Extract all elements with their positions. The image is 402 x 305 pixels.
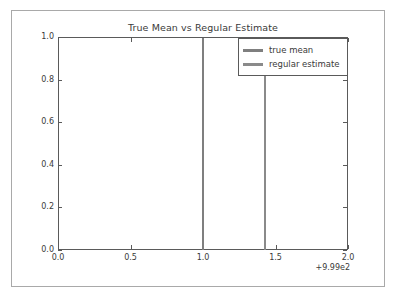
legend-label-regular-estimate: regular estimate	[269, 59, 340, 69]
y-tick-mark-right	[343, 250, 347, 251]
y-tick-label: 0.6	[10, 117, 54, 126]
x-tick-mark-top	[131, 38, 132, 42]
x-axis-offset-label: +9.99e2	[300, 263, 350, 272]
y-tick-mark	[58, 250, 62, 251]
x-tick-label: 1.5	[256, 253, 296, 262]
y-tick-mark	[58, 122, 62, 123]
y-tick-mark-right	[343, 207, 347, 208]
matplotlib-figure: True Mean vs Regular Estimate 0.00.20.40…	[0, 0, 402, 305]
chart-legend: true mean regular estimate	[238, 38, 348, 76]
legend-label-true-mean: true mean	[269, 45, 313, 55]
legend-swatch-regular-estimate	[243, 63, 263, 66]
y-tick-mark	[58, 165, 62, 166]
x-tick-mark	[131, 245, 132, 249]
x-tick-label: 0.5	[111, 253, 151, 262]
y-tick-mark-right	[343, 80, 347, 81]
y-tick-mark	[58, 207, 62, 208]
x-tick-label: 0.0	[38, 253, 78, 262]
y-tick-label: 0.2	[10, 202, 54, 211]
x-tick-label: 2.0	[328, 253, 368, 262]
x-tick-mark-top	[348, 38, 349, 42]
y-tick-mark-right	[343, 122, 347, 123]
y-tick-mark	[58, 80, 62, 81]
legend-item-regular-estimate: regular estimate	[243, 57, 341, 71]
x-tick-mark	[276, 245, 277, 249]
series-vline-true-mean	[202, 38, 204, 250]
y-tick-mark-right	[343, 165, 347, 166]
x-tick-mark	[348, 245, 349, 249]
x-tick-mark-top	[58, 38, 59, 42]
y-tick-label: 1.0	[10, 32, 54, 41]
legend-item-true-mean: true mean	[243, 43, 341, 57]
x-tick-mark	[58, 245, 59, 249]
y-tick-label: 0.8	[10, 75, 54, 84]
x-tick-label: 1.0	[183, 253, 223, 262]
chart-title: True Mean vs Regular Estimate	[58, 22, 348, 33]
legend-swatch-true-mean	[243, 49, 263, 52]
y-tick-label: 0.4	[10, 160, 54, 169]
